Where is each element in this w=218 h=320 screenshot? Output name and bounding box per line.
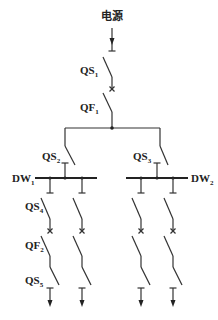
qf2-label: QF2 [25,239,44,254]
feeder-1 [41,178,59,307]
power-source-label: 电源 [101,9,123,23]
qs2-disconnector [62,128,76,178]
qs4-label: QS4 [25,200,44,215]
single-line-diagram: 电源 QS1 QF1 QS2 QS3 DW1 [0,0,218,320]
dw2-label: DW2 [191,172,214,187]
dw1-label: DW1 [12,172,35,187]
qs5-label: QS5 [25,274,44,289]
qs2-label: QS2 [42,150,61,165]
qs3-disconnector [154,128,169,178]
feeder-3 [132,178,150,307]
feeder-4 [164,178,182,307]
qf1-label: QF1 [80,101,99,116]
qf1-breaker [103,87,115,129]
qs1-disconnector [103,57,112,89]
feeder-2 [73,178,91,307]
qs3-label: QS3 [133,150,152,165]
qs1-label: QS1 [80,64,99,79]
junction-dot [110,126,114,130]
incoming-feed-arrow [109,28,116,51]
